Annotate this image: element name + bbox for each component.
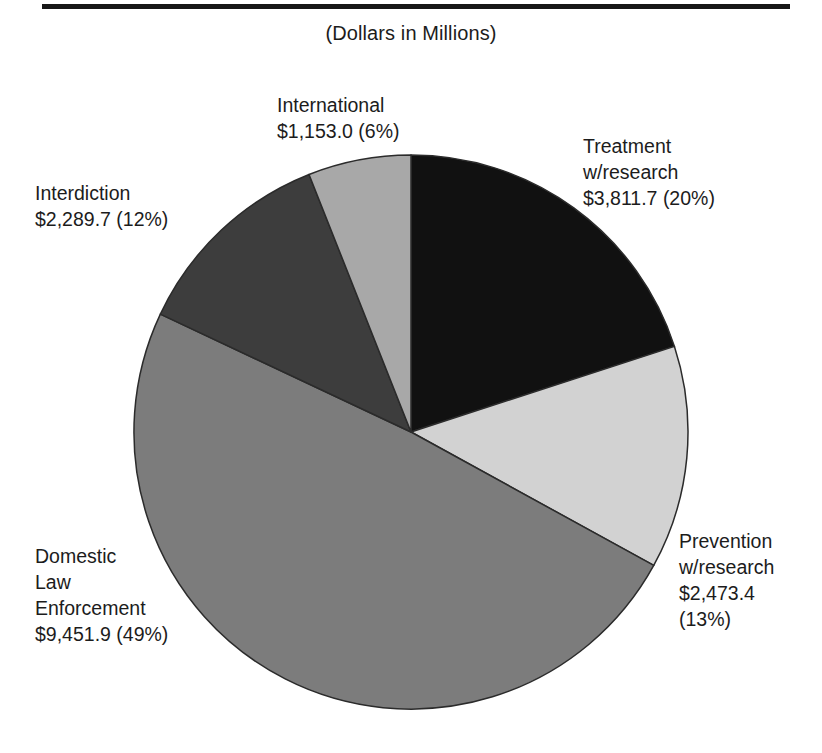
label-international: International $1,153.0 (6%) xyxy=(277,92,400,144)
label-domestic: Domestic Law Enforcement $9,451.9 (49%) xyxy=(35,543,168,647)
label-treatment: Treatment w/research $3,811.7 (20%) xyxy=(583,133,715,211)
label-interdiction: Interdiction $2,289.7 (12%) xyxy=(35,180,168,232)
pie-slice-group xyxy=(134,155,688,709)
label-prevention: Prevention w/research $2,473.4 (13%) xyxy=(679,528,774,632)
